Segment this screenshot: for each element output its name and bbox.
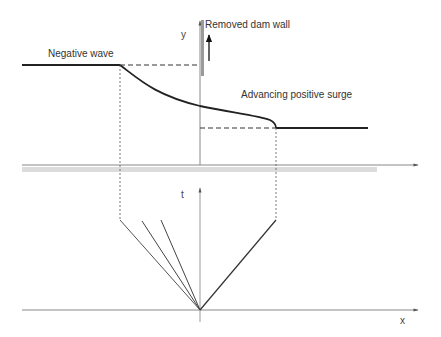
advancing-positive-surge-label: Advancing positive surge <box>241 90 352 100</box>
surge-characteristic-line <box>200 220 276 310</box>
removed-dam-wall-label: Removed dam wall <box>205 20 290 30</box>
channel-bed-band <box>22 167 377 172</box>
characteristic-line-3 <box>161 220 200 310</box>
y-axis-label: y <box>181 30 186 40</box>
characteristic-line-1 <box>120 220 200 310</box>
x-axis-label: x <box>400 316 405 326</box>
dam-wall <box>201 20 204 76</box>
characteristic-line-2 <box>142 221 200 310</box>
t-axis-label: t <box>181 190 184 200</box>
negative-wave-label: Negative wave <box>48 49 114 59</box>
